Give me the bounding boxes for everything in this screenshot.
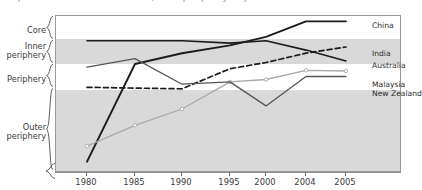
x-axis-line	[55, 172, 401, 173]
y-category-inner-periphery-label: Inner periphery	[6, 41, 46, 60]
brace-periphery	[46, 64, 54, 87]
series-marker-malaysia	[180, 107, 183, 110]
x-axis-label-2005: 2005	[334, 177, 355, 187]
x-axis-label-1990: 1990	[170, 177, 191, 187]
x-tick-1995	[229, 172, 230, 176]
plot-area	[55, 15, 401, 172]
x-tick-1985	[134, 172, 135, 176]
y-category-outer-periphery: Outer periphery	[0, 123, 46, 142]
series-label-new-zealand: New Zealand	[372, 90, 422, 98]
series-marker-malaysia	[85, 145, 88, 148]
series-marker-malaysia	[344, 69, 347, 72]
brace-outer-periphery	[46, 88, 54, 170]
y-axis-categories: Core Inner periphery Periphery Outer per…	[0, 0, 46, 190]
series-label-australia: Australia	[372, 62, 406, 70]
series-lines	[56, 16, 400, 171]
series-marker-malaysia	[264, 78, 267, 81]
series-label-china: China	[372, 22, 394, 30]
brace-core	[46, 16, 54, 39]
series-line-australia	[87, 41, 346, 61]
x-tick-2005	[345, 172, 346, 176]
x-tick-1990	[181, 172, 182, 176]
y-category-periphery: Periphery	[0, 75, 46, 84]
axis-corner-brace	[44, 163, 56, 179]
y-category-inner-periphery: Inner periphery	[0, 42, 46, 61]
brace-inner-periphery	[46, 40, 54, 63]
x-axis-label-2000: 2000	[254, 177, 275, 187]
y-category-core: Core	[0, 26, 46, 35]
series-marker-malaysia	[304, 69, 307, 72]
x-tick-2000	[265, 172, 266, 176]
y-category-outer-periphery-label: Outer periphery	[6, 122, 46, 141]
x-axis-label-1985: 1985	[123, 177, 144, 187]
series-marker-malaysia	[133, 124, 136, 127]
x-axis-label-1995: 1995	[218, 177, 239, 187]
x-axis-label-1980: 1980	[75, 177, 96, 187]
x-tick-1980	[86, 172, 87, 176]
x-axis-label-2004: 2004	[294, 177, 315, 187]
chart-title-strip: Graph 1: Asia-Pacific economies, core–pe…	[0, 0, 411, 7]
x-tick-2004	[305, 172, 306, 176]
series-label-india: India	[372, 50, 391, 58]
series-label-malaysia: Malaysia	[372, 81, 405, 89]
